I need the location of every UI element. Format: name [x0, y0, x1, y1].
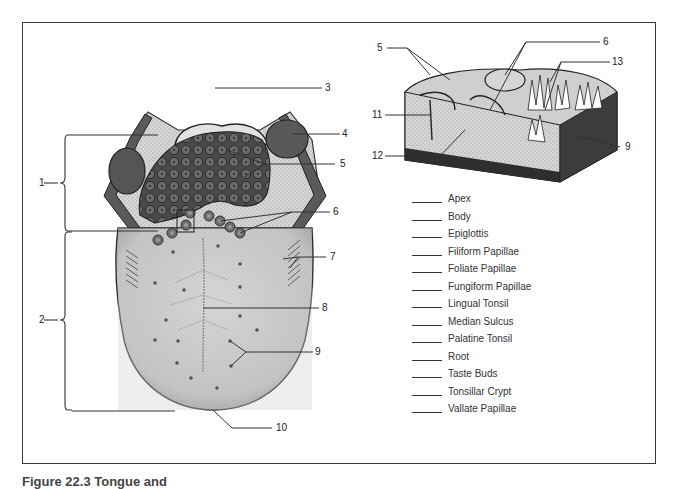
term-item: Root [412, 348, 592, 366]
term-item: Palatine Tonsil [412, 330, 592, 348]
inset-callout-11: 11 [372, 110, 382, 120]
term-list: Apex Body Epiglottis Filiform Papillae F… [412, 190, 592, 418]
callout-2: 2 [39, 315, 45, 325]
answer-blank[interactable] [412, 369, 442, 378]
term-item: Body [412, 208, 592, 226]
inset-callout-13: 13 [612, 57, 623, 67]
term-item: Lingual Tonsil [412, 295, 592, 313]
answer-blank[interactable] [412, 387, 442, 396]
term-item: Median Sulcus [412, 313, 592, 331]
callout-7: 7 [330, 252, 336, 262]
term-item: Fungiform Papillae [412, 278, 592, 296]
answer-blank[interactable] [412, 317, 442, 326]
term-item: Tonsillar Crypt [412, 383, 592, 401]
inset-callout-9: 9 [625, 142, 631, 152]
callout-3: 3 [325, 83, 331, 93]
inset-callout-12: 12 [372, 151, 383, 161]
inset-tissue-block [405, 69, 617, 182]
callout-9: 9 [315, 347, 321, 357]
answer-blank[interactable] [412, 299, 442, 308]
answer-blank[interactable] [412, 282, 442, 291]
term-item: Vallate Papillae [412, 400, 592, 418]
answer-blank[interactable] [412, 352, 442, 361]
term-item: Taste Buds [412, 365, 592, 383]
figure-caption: Figure 22.3 Tongue and [22, 474, 167, 489]
answer-blank[interactable] [412, 229, 442, 238]
answer-blank[interactable] [412, 194, 442, 203]
palatine-tonsil-left [109, 148, 145, 194]
answer-blank[interactable] [412, 404, 442, 413]
term-item: Epiglottis [412, 225, 592, 243]
callout-6: 6 [333, 207, 339, 217]
callout-10: 10 [276, 423, 287, 433]
term-item: Filiform Papillae [412, 243, 592, 261]
answer-blank[interactable] [412, 334, 442, 343]
callout-4: 4 [342, 129, 348, 139]
term-item: Foliate Papillae [412, 260, 592, 278]
answer-blank[interactable] [412, 264, 442, 273]
term-item: Apex [412, 190, 592, 208]
palatine-tonsil-right [266, 120, 308, 158]
answer-blank[interactable] [412, 212, 442, 221]
callout-1: 1 [39, 178, 45, 188]
inset-callout-5: 5 [377, 43, 383, 53]
answer-blank[interactable] [412, 247, 442, 256]
callout-8: 8 [322, 303, 328, 313]
callout-5: 5 [340, 159, 346, 169]
inset-callout-6: 6 [603, 37, 609, 47]
